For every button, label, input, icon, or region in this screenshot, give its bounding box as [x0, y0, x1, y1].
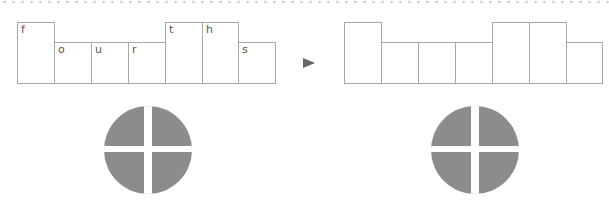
letter: o	[58, 43, 65, 56]
letter: t	[169, 23, 173, 36]
dotted-top-border	[0, 0, 609, 4]
letter: f	[21, 23, 25, 36]
letter-box: s	[238, 42, 276, 84]
quartered-circle-icon	[431, 106, 519, 194]
letter-box: h	[202, 22, 239, 84]
letter: r	[132, 43, 137, 56]
letter: u	[95, 43, 102, 56]
letter: s	[242, 43, 248, 56]
letter-box	[492, 22, 530, 84]
letter-box: r	[128, 42, 166, 84]
letter: h	[206, 23, 213, 36]
letter-box	[381, 42, 419, 84]
letter-box	[566, 42, 603, 84]
circle-gap-horizontal	[104, 146, 192, 152]
play-triangle-icon	[303, 58, 315, 68]
letter-box	[455, 42, 493, 84]
letter-box: t	[165, 22, 203, 84]
letter-box: o	[54, 42, 92, 84]
letter-box: f	[17, 22, 55, 84]
letter-box	[529, 22, 567, 84]
quartered-circle-icon	[104, 106, 192, 194]
letter-box: u	[91, 42, 129, 84]
letter-box	[418, 42, 456, 84]
circle-gap-horizontal	[431, 146, 519, 152]
letter-box	[344, 22, 382, 84]
